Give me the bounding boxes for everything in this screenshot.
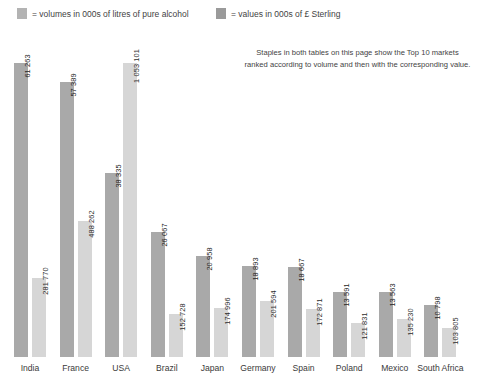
bar-value-label: 121 831: [358, 312, 372, 339]
bar-value-label: 201 594: [267, 290, 281, 317]
bar-value: 135 230: [397, 319, 411, 357]
bar-value-label: 57 389: [67, 73, 81, 96]
bar-group: 26 067152 728: [151, 0, 183, 357]
bar-value: 103 805: [442, 328, 456, 357]
bar-chart-plot-area: 61 263281 77057 389488 26238 3351 053 10…: [0, 0, 481, 357]
bar-volume: 18 667: [288, 267, 302, 357]
bar-value-label: 20 958: [203, 248, 217, 271]
bar-value-label: 18 667: [295, 259, 309, 282]
bar-group: 13 563135 230: [379, 0, 411, 357]
bar-value: 488 262: [78, 221, 92, 357]
category-label: South Africa: [410, 363, 470, 373]
bar-volume: 57 389: [60, 82, 74, 357]
bar-value-label: 103 805: [449, 317, 463, 344]
bar-volume: 18 893: [242, 266, 256, 357]
bar-value-label: 1 053 101: [130, 49, 144, 83]
bar-value-label: 281 770: [39, 268, 53, 295]
bar-volume: 10 798: [424, 305, 438, 357]
bar-value-label: 135 230: [404, 309, 418, 336]
bar-value-label: 174 996: [221, 297, 235, 324]
bar-group: 13 591121 831: [333, 0, 365, 357]
bar-value: 281 770: [32, 278, 46, 357]
bar-volume: 38 335: [105, 173, 119, 357]
bar-group: 18 893201 594: [242, 0, 274, 357]
bar-value: 1 053 101: [123, 63, 137, 357]
bar-group: 20 958174 996: [196, 0, 228, 357]
bar-value-label: 26 067: [158, 223, 172, 246]
bar-volume: 61 263: [14, 63, 28, 357]
bar-value: 201 594: [260, 301, 274, 357]
bar-volume: 13 563: [379, 292, 393, 357]
bar-group: 57 389488 262: [60, 0, 92, 357]
bar-value: 174 996: [214, 308, 228, 357]
bar-value: 121 831: [351, 323, 365, 357]
bar-volume: 26 067: [151, 232, 165, 357]
bar-value-label: 10 798: [431, 297, 445, 320]
bar-value: 172 871: [306, 309, 320, 357]
bar-group: 18 667172 871: [288, 0, 320, 357]
bar-value-label: 13 563: [386, 283, 400, 306]
bar-value-label: 18 893: [249, 258, 263, 281]
bar-value: 152 728: [169, 314, 183, 357]
category-axis: IndiaFranceUSABrazilJapanGermanySpainPol…: [0, 357, 481, 380]
bar-value-label: 172 871: [313, 298, 327, 325]
bar-value-label: 488 262: [85, 210, 99, 237]
bar-group: 61 263281 770: [14, 0, 46, 357]
bar-volume: 13 591: [333, 292, 347, 357]
bar-group: 10 798103 805: [424, 0, 456, 357]
bar-volume: 20 958: [196, 256, 210, 357]
bar-value-label: 13 591: [340, 283, 354, 306]
bar-value-label: 152 728: [176, 304, 190, 331]
bar-value-label: 61 263: [21, 54, 35, 77]
bar-group: 38 3351 053 101: [105, 0, 137, 357]
